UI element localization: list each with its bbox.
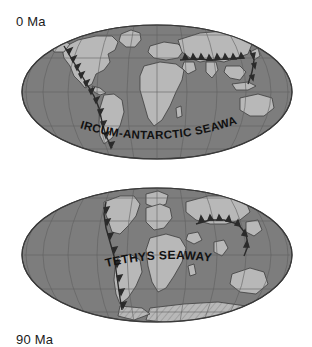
landmass-europe [148,42,184,60]
world-map-90ma: TETHYS SEAWAY [0,162,312,337]
world-map-0ma: CIRCUM-ANTARCTIC SEAWAY [0,0,312,168]
landmass-madagascar [176,106,182,118]
map-panel-0ma: 0 Ma [0,0,312,168]
map-panel-90ma: 90 Ma [0,162,312,337]
age-label-90ma: 90 Ma [16,332,53,347]
age-label-0ma: 0 Ma [16,14,46,29]
